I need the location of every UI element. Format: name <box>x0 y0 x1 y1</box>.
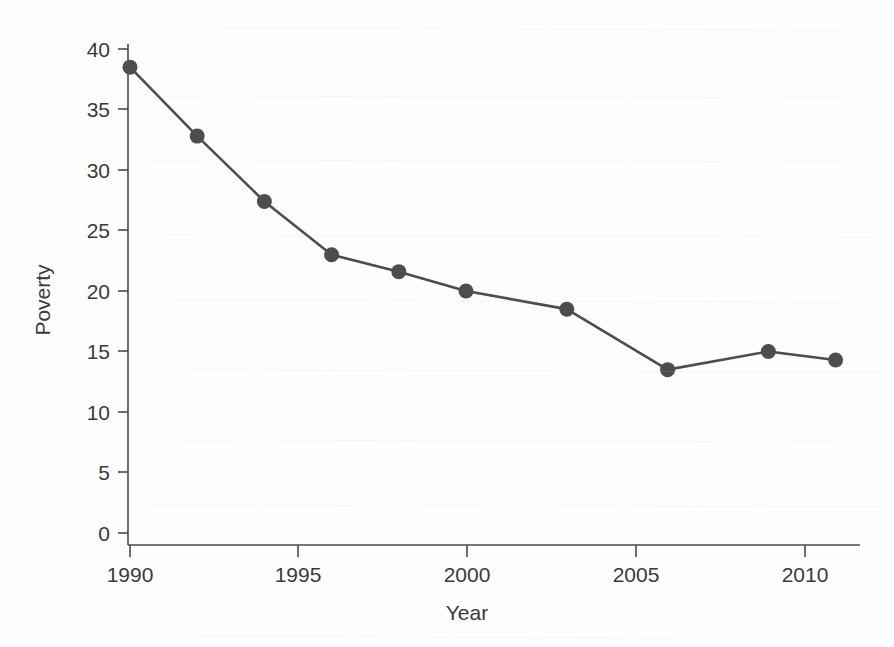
x-axis-title: Year <box>446 601 488 624</box>
chart-background <box>0 0 894 647</box>
y-axis-title: Poverty <box>31 264 54 336</box>
y-tick-label: 40 <box>87 38 110 61</box>
y-tick-label: 10 <box>87 401 110 424</box>
data-point: 2003: 18.5 <box>559 302 574 317</box>
data-point: 2006: 13.5 <box>660 362 675 377</box>
y-tick-label: 0 <box>98 522 110 545</box>
data-point: 2011: 14.3 <box>828 352 843 367</box>
x-tick-label: 1995 <box>275 563 322 586</box>
y-tick-label: 25 <box>87 219 110 242</box>
y-tick-label: 35 <box>87 98 110 121</box>
data-point: 1992: 32.8 <box>190 129 205 144</box>
y-tick-label: 30 <box>87 159 110 182</box>
y-tick-label: 20 <box>87 280 110 303</box>
x-tick-label: 2005 <box>613 563 660 586</box>
data-point: 1996: 23 <box>324 247 339 262</box>
data-point: 2000: 20 <box>459 284 474 299</box>
x-tick-label: 1990 <box>107 563 154 586</box>
chart-figure: 40 35 30 25 20 15 10 5 0 1990 1995 2000 … <box>0 0 894 647</box>
data-point: 1994: 27.4 <box>257 194 272 209</box>
y-tick-label: 15 <box>87 340 110 363</box>
y-tick-label: 5 <box>98 461 110 484</box>
x-tick-label: 2010 <box>782 563 829 586</box>
data-point: 1998: 21.6 <box>391 264 406 279</box>
x-tick-label: 2000 <box>444 563 491 586</box>
data-point: 2009: 15 <box>761 344 776 359</box>
data-point: 1990: 38.5 <box>123 60 138 75</box>
poverty-line-chart: 40 35 30 25 20 15 10 5 0 1990 1995 2000 … <box>0 0 894 647</box>
